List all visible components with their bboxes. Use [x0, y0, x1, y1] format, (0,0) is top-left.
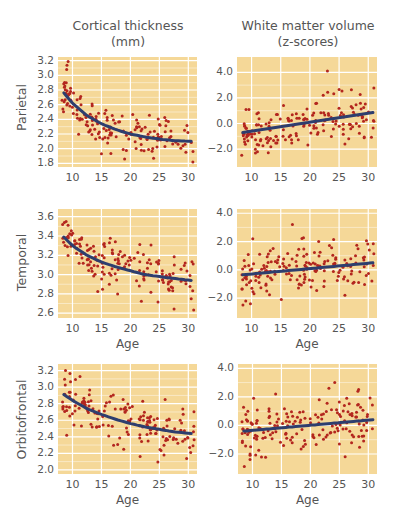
- data-point: [372, 242, 375, 245]
- data-point: [189, 451, 192, 454]
- data-point: [333, 381, 336, 384]
- data-point: [173, 307, 176, 310]
- data-point: [69, 90, 72, 93]
- data-point: [79, 375, 82, 378]
- data-point: [193, 438, 196, 441]
- x-tick-label: 25: [327, 171, 351, 184]
- data-point: [254, 275, 257, 278]
- data-point: [107, 137, 110, 140]
- data-point: [308, 278, 311, 281]
- data-point: [262, 431, 265, 434]
- data-point: [88, 388, 91, 391]
- data-point: [342, 123, 345, 126]
- data-point: [274, 430, 277, 433]
- data-point: [163, 116, 166, 119]
- y-tick-label: −2.0: [199, 291, 233, 303]
- data-point: [326, 434, 329, 437]
- data-point: [90, 133, 93, 136]
- data-point: [149, 130, 152, 133]
- y-tick-label: 2.4: [20, 112, 54, 124]
- data-point: [146, 433, 149, 436]
- data-point: [300, 428, 303, 431]
- data-point: [189, 285, 192, 288]
- data-point: [192, 309, 195, 312]
- data-point: [249, 452, 252, 455]
- data-point: [126, 402, 129, 405]
- data-point: [332, 128, 335, 131]
- data-point: [87, 411, 90, 414]
- data-point: [131, 405, 134, 408]
- data-point: [169, 130, 172, 133]
- data-point: [270, 260, 273, 263]
- data-point: [297, 286, 300, 289]
- y-tick-label: 2.0: [20, 142, 54, 154]
- data-point: [268, 422, 271, 425]
- data-point: [111, 252, 114, 255]
- data-point: [96, 290, 99, 293]
- data-point: [96, 264, 99, 267]
- data-point: [311, 435, 314, 438]
- data-point: [69, 380, 72, 383]
- data-point: [305, 261, 308, 264]
- data-point: [340, 90, 343, 93]
- data-point: [280, 298, 283, 301]
- data-point: [259, 286, 262, 289]
- data-point: [356, 390, 359, 393]
- data-point: [110, 134, 113, 137]
- data-point: [68, 391, 71, 394]
- data-point: [127, 138, 130, 141]
- data-point: [283, 407, 286, 410]
- data-point: [362, 440, 365, 443]
- x-tick-label: 15: [269, 171, 293, 184]
- data-point: [156, 145, 159, 148]
- data-point: [314, 102, 317, 105]
- data-point: [184, 438, 187, 441]
- data-point: [162, 453, 165, 456]
- scatter-plot: [58, 364, 197, 474]
- data-point: [350, 412, 353, 415]
- plot-area: [237, 209, 377, 318]
- data-point: [157, 259, 160, 262]
- data-point: [72, 424, 75, 427]
- data-point: [241, 268, 244, 271]
- data-point: [318, 398, 321, 401]
- data-point: [343, 404, 346, 407]
- data-point: [135, 279, 138, 282]
- data-point: [263, 267, 266, 270]
- data-point: [87, 400, 90, 403]
- data-point: [349, 123, 352, 126]
- data-point: [358, 422, 361, 425]
- data-point: [275, 412, 278, 415]
- x-tick-label: 25: [147, 322, 171, 335]
- data-point: [314, 413, 317, 416]
- data-point: [94, 138, 97, 141]
- y-tick-label: 0.0: [199, 117, 233, 129]
- data-point: [61, 406, 64, 409]
- data-point: [80, 425, 83, 428]
- y-tick-label: 3.0: [20, 268, 54, 280]
- data-point: [326, 91, 329, 94]
- data-point: [147, 148, 150, 151]
- scatter-plot: [58, 209, 197, 318]
- data-point: [350, 105, 353, 108]
- y-tick-label: 3.0: [20, 380, 54, 392]
- data-point: [65, 103, 68, 106]
- data-point: [89, 260, 92, 263]
- data-point: [247, 253, 250, 256]
- data-point: [348, 402, 351, 405]
- plot-area: [58, 57, 197, 167]
- data-point: [300, 448, 303, 451]
- x-tick-label: 10: [240, 478, 264, 491]
- data-point: [111, 267, 114, 270]
- data-point: [164, 439, 167, 442]
- data-point: [257, 111, 260, 114]
- plot-area: [58, 209, 197, 318]
- data-point: [76, 98, 79, 101]
- x-tick-label: 20: [118, 322, 142, 335]
- data-point: [302, 255, 305, 258]
- data-point: [93, 264, 96, 267]
- data-point: [358, 270, 361, 273]
- data-point: [115, 135, 118, 138]
- data-point: [345, 427, 348, 430]
- data-point: [250, 267, 253, 270]
